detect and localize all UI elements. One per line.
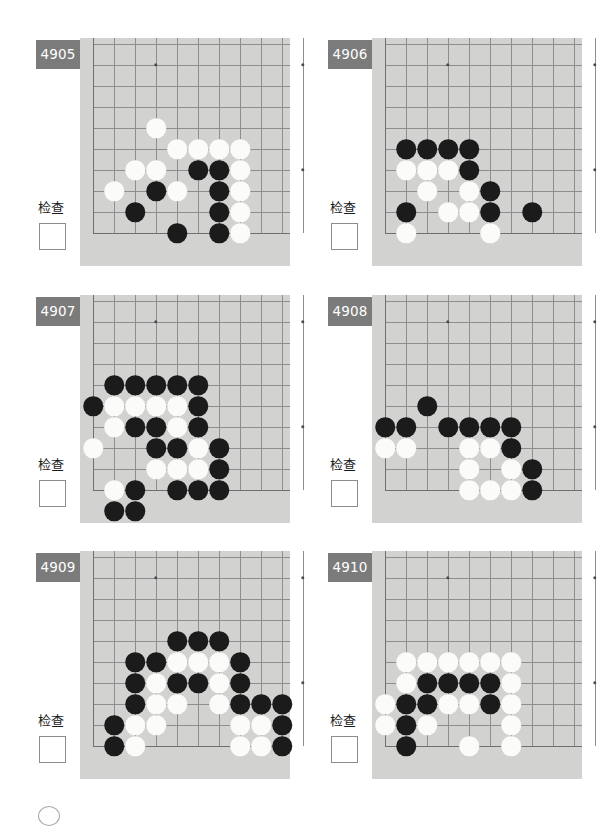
black-stone[interactable] [125,501,145,521]
white-stone[interactable] [146,694,166,714]
black-stone[interactable] [104,375,124,395]
white-stone[interactable] [146,715,166,735]
black-stone[interactable] [522,459,542,479]
black-stone[interactable] [480,202,500,222]
white-stone[interactable] [167,396,187,416]
white-stone[interactable] [230,181,250,201]
white-stone[interactable] [501,480,521,500]
white-stone[interactable] [396,673,416,693]
black-stone[interactable] [104,715,124,735]
black-stone[interactable] [167,375,187,395]
white-stone[interactable] [501,715,521,735]
white-stone[interactable] [146,673,166,693]
black-stone[interactable] [104,736,124,756]
black-stone[interactable] [125,417,145,437]
white-stone[interactable] [230,202,250,222]
white-stone[interactable] [438,694,458,714]
white-stone[interactable] [167,417,187,437]
black-stone[interactable] [480,694,500,714]
white-stone[interactable] [480,652,500,672]
black-stone[interactable] [125,673,145,693]
white-stone[interactable] [230,223,250,243]
black-stone[interactable] [480,673,500,693]
white-stone[interactable] [459,736,479,756]
black-stone[interactable] [209,160,229,180]
white-stone[interactable] [188,139,208,159]
white-stone[interactable] [167,652,187,672]
white-stone[interactable] [417,181,437,201]
white-stone[interactable] [230,139,250,159]
black-stone[interactable] [125,202,145,222]
go-board[interactable] [372,295,582,523]
check-checkbox[interactable] [39,736,66,763]
black-stone[interactable] [167,631,187,651]
go-board[interactable] [80,295,290,523]
black-stone[interactable] [125,375,145,395]
white-stone[interactable] [417,715,437,735]
black-stone[interactable] [417,396,437,416]
black-stone[interactable] [417,139,437,159]
white-stone[interactable] [396,652,416,672]
black-stone[interactable] [230,652,250,672]
white-stone[interactable] [209,673,229,693]
white-stone[interactable] [230,736,250,756]
white-stone[interactable] [375,715,395,735]
white-stone[interactable] [480,223,500,243]
black-stone[interactable] [188,375,208,395]
black-stone[interactable] [459,160,479,180]
white-stone[interactable] [375,694,395,714]
black-stone[interactable] [272,694,292,714]
black-stone[interactable] [146,652,166,672]
black-stone[interactable] [167,223,187,243]
white-stone[interactable] [188,652,208,672]
black-stone[interactable] [396,715,416,735]
white-stone[interactable] [146,160,166,180]
white-stone[interactable] [438,160,458,180]
black-stone[interactable] [209,438,229,458]
white-stone[interactable] [501,694,521,714]
black-stone[interactable] [167,480,187,500]
white-stone[interactable] [459,459,479,479]
black-stone[interactable] [396,736,416,756]
go-board[interactable] [80,38,290,266]
white-stone[interactable] [375,438,395,458]
black-stone[interactable] [146,375,166,395]
white-stone[interactable] [125,736,145,756]
white-stone[interactable] [251,736,271,756]
white-stone[interactable] [167,694,187,714]
black-stone[interactable] [459,673,479,693]
black-stone[interactable] [209,223,229,243]
black-stone[interactable] [251,694,271,714]
black-stone[interactable] [501,438,521,458]
black-stone[interactable] [146,417,166,437]
white-stone[interactable] [188,459,208,479]
black-stone[interactable] [209,631,229,651]
black-stone[interactable] [209,459,229,479]
black-stone[interactable] [438,139,458,159]
white-stone[interactable] [83,438,103,458]
black-stone[interactable] [438,673,458,693]
white-stone[interactable] [459,438,479,458]
white-stone[interactable] [459,181,479,201]
white-stone[interactable] [417,652,437,672]
black-stone[interactable] [375,417,395,437]
white-stone[interactable] [146,459,166,479]
white-stone[interactable] [209,694,229,714]
black-stone[interactable] [188,160,208,180]
white-stone[interactable] [480,438,500,458]
white-stone[interactable] [396,160,416,180]
black-stone[interactable] [188,631,208,651]
go-board[interactable] [372,551,582,779]
white-stone[interactable] [104,480,124,500]
black-stone[interactable] [272,736,292,756]
black-stone[interactable] [230,673,250,693]
black-stone[interactable] [125,480,145,500]
check-checkbox[interactable] [331,223,358,250]
black-stone[interactable] [104,501,124,521]
black-stone[interactable] [146,181,166,201]
white-stone[interactable] [230,160,250,180]
black-stone[interactable] [417,694,437,714]
black-stone[interactable] [438,417,458,437]
black-stone[interactable] [188,673,208,693]
black-stone[interactable] [209,181,229,201]
